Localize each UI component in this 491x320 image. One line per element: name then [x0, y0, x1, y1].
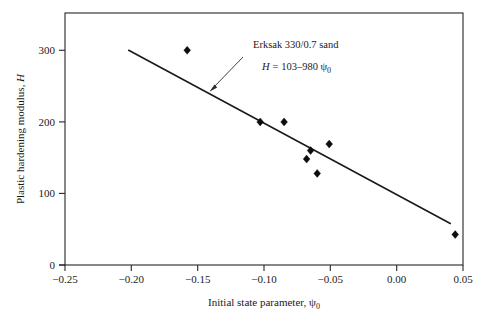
y-tick-label: 200: [39, 116, 56, 128]
equation-subscript: 0: [327, 66, 331, 75]
svg-text:Plastic hardening modulus, H: Plastic hardening modulus, H: [14, 73, 26, 204]
y-axis-ticks: [59, 50, 65, 265]
data-point: [314, 169, 321, 177]
equation-symbol: H: [261, 61, 271, 72]
svg-text:Initial state parameter, ψ0: Initial state parameter, ψ0: [208, 296, 320, 311]
x-tick-labels: −0.25 −0.20 −0.15 −0.10 −0.05 0.00 0.05: [52, 273, 473, 285]
data-point: [326, 140, 333, 148]
y-axis-title-text: Plastic hardening modulus,: [14, 82, 26, 204]
x-tick-label: −0.25: [52, 273, 78, 285]
material-label: Erksak 330/0.7 sand: [253, 39, 339, 50]
scatter-chart: −0.25 −0.20 −0.15 −0.10 −0.05 0.00 0.05 …: [0, 0, 491, 320]
x-tick-label: 0.05: [453, 273, 473, 285]
x-tick-label: 0.00: [387, 273, 407, 285]
y-tick-label: 300: [39, 44, 56, 56]
x-axis-title-text: Initial state parameter,: [208, 296, 309, 308]
y-axis-title-symbol: H: [14, 73, 26, 83]
data-point: [303, 155, 310, 163]
equation-label: H= 103–980 ψ0: [261, 61, 331, 75]
plot-frame: [65, 13, 463, 265]
x-tick-label: −0.10: [251, 273, 277, 285]
equation-body: = 103–980 ψ: [273, 61, 328, 72]
annotation-block: Erksak 330/0.7 sand H= 103–980 ψ0: [253, 39, 339, 75]
x-axis-title: Initial state parameter, ψ0: [208, 296, 320, 311]
x-tick-label: −0.05: [318, 273, 344, 285]
x-tick-label: −0.20: [119, 273, 145, 285]
data-point: [184, 46, 191, 54]
y-axis-title: Plastic hardening modulus, H: [14, 73, 26, 204]
y-tick-labels: 0 100 200 300: [39, 44, 56, 271]
data-point: [452, 231, 459, 239]
x-axis-title-subscript: 0: [316, 302, 320, 311]
data-point: [281, 118, 288, 126]
x-axis-ticks: [65, 265, 463, 271]
figure-container: −0.25 −0.20 −0.15 −0.10 −0.05 0.00 0.05 …: [0, 0, 491, 320]
trend-line: [129, 50, 451, 223]
callout-arrow: [209, 57, 243, 92]
y-tick-label: 0: [50, 259, 56, 271]
y-tick-label: 100: [39, 187, 56, 199]
x-tick-label: −0.15: [185, 273, 211, 285]
